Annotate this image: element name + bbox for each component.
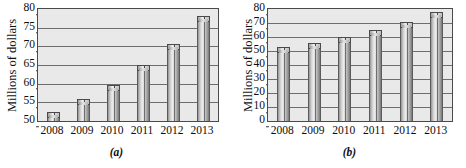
bar-center-line bbox=[144, 71, 145, 121]
bar-top-cap bbox=[277, 47, 290, 53]
y-axis-tick-label: 50 bbox=[9, 114, 35, 126]
y-axis-tick-label: 80 bbox=[9, 2, 35, 14]
bar bbox=[167, 44, 180, 121]
chart-panel-b: Millions of dollars 01020304050607080 20… bbox=[233, 0, 466, 168]
gridline bbox=[38, 65, 218, 66]
bar-top-cap bbox=[197, 16, 210, 22]
y-axis-ticks-a: 50556065707580 bbox=[5, 8, 35, 122]
bar-center-line bbox=[204, 22, 205, 121]
bar-top-cap bbox=[167, 44, 180, 50]
y-axis-tick-label: 70 bbox=[9, 40, 35, 52]
bar-top-cap bbox=[77, 99, 90, 105]
bar-top-cap bbox=[400, 22, 413, 28]
y-axis-tick-label: 60 bbox=[9, 77, 35, 89]
y-axis-ticks-b: 01020304050607080 bbox=[235, 8, 265, 122]
bar-top-cap bbox=[137, 65, 150, 71]
panel-caption-b: (b) bbox=[233, 146, 466, 158]
gridline bbox=[268, 107, 452, 108]
bar-cap-divider bbox=[54, 113, 55, 117]
gridline bbox=[38, 28, 218, 29]
bar-center-line bbox=[284, 53, 285, 121]
y-axis-tick-label: 10 bbox=[239, 100, 265, 112]
bar-center-line bbox=[315, 49, 316, 121]
bar-top-cap bbox=[369, 30, 382, 36]
bar bbox=[47, 112, 60, 121]
x-axis-tick-label: 2011 bbox=[131, 124, 154, 136]
bar-top-cap bbox=[107, 85, 120, 91]
bar-center-line bbox=[407, 28, 408, 121]
y-axis-tick-label: 70 bbox=[239, 16, 265, 28]
gridline bbox=[38, 84, 218, 85]
plot-area-a bbox=[37, 8, 219, 122]
gridline bbox=[268, 79, 452, 80]
y-axis-tick-label: 20 bbox=[239, 86, 265, 98]
x-axis-tick-label: 2013 bbox=[424, 124, 447, 136]
y-axis-tick-label: 65 bbox=[9, 58, 35, 70]
bar-cap-divider bbox=[315, 44, 316, 48]
y-axis-tick-label: 40 bbox=[239, 58, 265, 70]
bar bbox=[137, 65, 150, 121]
bar-cap-divider bbox=[407, 23, 408, 27]
y-axis-tick-label: 30 bbox=[239, 72, 265, 84]
bar bbox=[369, 30, 382, 121]
bar-center-line bbox=[437, 18, 438, 121]
bar-cap-divider bbox=[144, 66, 145, 70]
gridline bbox=[268, 93, 452, 94]
y-axis-tick-label: 80 bbox=[239, 2, 265, 14]
bar bbox=[197, 16, 210, 121]
gridline bbox=[268, 37, 452, 38]
bar-top-cap bbox=[47, 112, 60, 118]
bar-center-line bbox=[54, 118, 55, 121]
bar-center-line bbox=[114, 91, 115, 121]
x-axis-tick-label: 2009 bbox=[71, 124, 94, 136]
chart-panel-a: Millions of dollars 50556065707580 20082… bbox=[0, 0, 233, 168]
bar-top-cap bbox=[430, 12, 443, 18]
bar-cap-divider bbox=[174, 45, 175, 49]
y-axis-tick-label: 0 bbox=[239, 114, 265, 126]
figure-two-bar-charts: Millions of dollars 50556065707580 20082… bbox=[0, 0, 466, 168]
bar bbox=[277, 47, 290, 121]
bar-center-line bbox=[345, 43, 346, 121]
bar bbox=[338, 37, 351, 121]
y-axis-tick-label: 60 bbox=[239, 30, 265, 42]
bar-center-line bbox=[84, 105, 85, 121]
y-axis-tick-label: 50 bbox=[239, 44, 265, 56]
plot-area-b bbox=[267, 8, 453, 122]
bar bbox=[77, 99, 90, 121]
bar-cap-divider bbox=[437, 13, 438, 17]
bar-cap-divider bbox=[84, 100, 85, 104]
bar-cap-divider bbox=[114, 86, 115, 90]
x-axis-tick-label: 2011 bbox=[363, 124, 386, 136]
bar-cap-divider bbox=[376, 31, 377, 35]
bar-center-line bbox=[174, 50, 175, 121]
bar-cap-divider bbox=[284, 48, 285, 52]
x-axis-labels-b: 200820092010201120122013 bbox=[267, 124, 453, 140]
gridline bbox=[38, 102, 218, 103]
x-axis-tick-label: 2012 bbox=[161, 124, 184, 136]
panel-caption-a: (a) bbox=[0, 146, 233, 158]
y-axis-tick-label: 75 bbox=[9, 21, 35, 33]
bar-center-line bbox=[376, 36, 377, 121]
y-axis-tick-label: 55 bbox=[9, 96, 35, 108]
bar bbox=[308, 43, 321, 121]
x-axis-tick-label: 2009 bbox=[302, 124, 325, 136]
gridline bbox=[38, 46, 218, 47]
bar bbox=[430, 12, 443, 121]
x-axis-tick-label: 2010 bbox=[332, 124, 355, 136]
bar-cap-divider bbox=[345, 38, 346, 42]
bar bbox=[400, 22, 413, 121]
bar-cap-divider bbox=[204, 17, 205, 21]
bar-top-cap bbox=[338, 37, 351, 43]
gridline bbox=[268, 51, 452, 52]
x-axis-tick-label: 2008 bbox=[41, 124, 64, 136]
x-axis-tick-label: 2008 bbox=[271, 124, 294, 136]
bar-top-cap bbox=[308, 43, 321, 49]
gridline bbox=[268, 65, 452, 66]
x-axis-tick-label: 2012 bbox=[394, 124, 417, 136]
bar bbox=[107, 85, 120, 121]
x-axis-tick-label: 2010 bbox=[101, 124, 124, 136]
x-axis-tick-label: 2013 bbox=[191, 124, 214, 136]
gridline bbox=[268, 23, 452, 24]
x-axis-labels-a: 200820092010201120122013 bbox=[37, 124, 219, 140]
